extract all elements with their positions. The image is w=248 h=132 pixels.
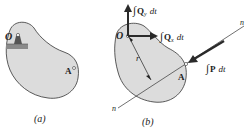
label-Qx: ∫Qxdt — [159, 30, 184, 43]
label-O-b: O — [116, 30, 123, 41]
point-A-b — [184, 62, 187, 65]
panel-b: n n r O ∫Qydt ∫Qxdt A ∫Pdt (b) — [112, 4, 244, 128]
label-n-top: n — [240, 18, 244, 27]
panel-a: O A (a) — [5, 22, 78, 125]
ground-support — [6, 44, 28, 49]
impulse-diagram: O A (a) n n r O ∫Qydt ∫Qxdt A ∫Pdt — [0, 0, 248, 132]
caption-a: (a) — [34, 113, 46, 125]
label-Qy: ∫Qydt — [132, 4, 157, 17]
label-O-a: O — [5, 31, 12, 42]
label-A-a: A — [65, 66, 72, 76]
label-r: r — [136, 53, 140, 63]
point-A-a — [73, 67, 76, 70]
caption-b: (b) — [142, 116, 154, 128]
label-n-bottom: n — [112, 104, 116, 113]
label-A-b: A — [178, 72, 185, 82]
arrowhead-up-icon — [124, 4, 132, 12]
pin-O-a — [16, 33, 19, 36]
impulse-P-arrow — [194, 41, 224, 59]
label-P: ∫Pdt — [205, 62, 226, 75]
